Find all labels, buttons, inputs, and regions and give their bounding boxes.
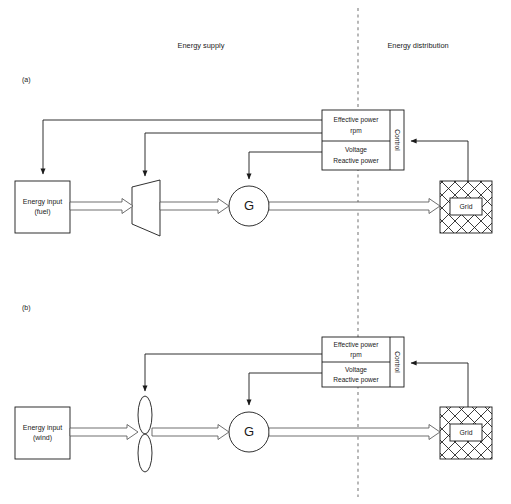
grid-a-label: Grid xyxy=(460,203,473,210)
wind-rotor-blade-lower-b[interactable] xyxy=(138,434,152,472)
energy-input-b-line2: (wind) xyxy=(33,434,52,442)
control-a-cell1-line2: rpm xyxy=(350,127,362,135)
control-b-cell1-line2: rpm xyxy=(350,351,362,359)
generator-a-label: G xyxy=(244,198,254,213)
grid-b-label: Grid xyxy=(460,429,473,436)
control-a-title: Control xyxy=(394,129,401,151)
wind-rotor-blade-upper-b[interactable] xyxy=(138,396,152,434)
panel-label-a: (a) xyxy=(22,76,31,84)
section-label-energy-supply: Energy supply xyxy=(178,41,225,50)
figure-canvas: Energy supply Energy distribution (a) Ef… xyxy=(0,0,511,504)
panel-label-b: (b) xyxy=(22,304,31,312)
control-b-cell2-line2: Reactive power xyxy=(333,376,379,384)
generator-b-label: G xyxy=(244,424,254,439)
control-b-title: Control xyxy=(394,351,401,373)
control-a-cell1-line1: Effective power xyxy=(334,116,380,124)
energy-input-a-line2: (fuel) xyxy=(35,208,51,216)
control-a-cell2-line2: Reactive power xyxy=(333,157,379,165)
control-b-cell2-line1: Voltage xyxy=(345,366,367,374)
energy-input-a-line1: Energy input xyxy=(23,198,62,206)
energy-system-diagram: Energy supply Energy distribution (a) Ef… xyxy=(0,0,511,504)
control-b-cell1-line1: Effective power xyxy=(334,341,380,349)
section-label-energy-distribution: Energy distribution xyxy=(387,41,448,50)
energy-input-b-line1: Energy input xyxy=(23,424,62,432)
control-a-cell2-line1: Voltage xyxy=(345,146,367,154)
